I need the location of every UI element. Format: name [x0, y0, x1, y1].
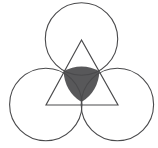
figure-container: Three mutually tangent circles with insc…	[0, 0, 158, 148]
geometric-figure-svg: Three mutually tangent circles with insc…	[0, 0, 158, 148]
